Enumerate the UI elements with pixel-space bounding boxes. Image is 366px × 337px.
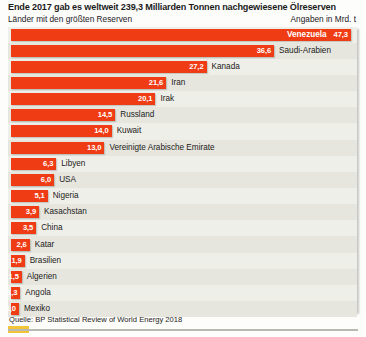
bar-wrapper: 1,0Mexiko — [11, 303, 50, 315]
bar-category-label: Kuwait — [112, 125, 142, 137]
bar-wrapper: 20,1Irak — [11, 93, 174, 105]
bar-wrapper: 27,2Kanada — [11, 61, 240, 73]
table-row: 13,0Vereinigte Arabische Emirate — [8, 140, 357, 156]
bar: 1,5 — [11, 271, 22, 283]
table-row: 20,1Irak — [8, 91, 357, 107]
bar-category-label: Brasilien — [25, 255, 61, 267]
bar-rows-container: Venezuela47,336,6Saudi-Arabien27,2Kanada… — [8, 27, 357, 312]
table-row: 1,5Algerien — [8, 269, 357, 285]
bar-value-label: 1,0 — [6, 303, 16, 315]
bar-value-label: 14,5 — [98, 109, 112, 121]
bar-wrapper: 1,5Algerien — [11, 271, 57, 283]
bar-wrapper: 6,0USA — [11, 174, 76, 186]
bar-wrapper: 6,3Libyen — [11, 158, 85, 170]
footer-divider — [8, 329, 358, 331]
bar-wrapper: 14,5Russland — [11, 109, 154, 121]
bar-category-label: Kasachstan — [39, 206, 87, 218]
bar-category-label: Algerien — [22, 271, 57, 283]
bar-value-label: 1,9 — [11, 255, 21, 267]
bar-wrapper: 3,5China — [11, 222, 63, 234]
infographic-page: Ende 2017 gab es weltweit 239,3 Milliard… — [0, 0, 366, 337]
bar: 2,6 — [11, 239, 30, 251]
bar-wrapper: 1,9Brasilien — [11, 255, 61, 267]
subtitle-row: Länder mit den größten Reserven Angaben … — [8, 14, 360, 25]
bar-value-label: 20,1 — [138, 93, 152, 105]
bar-category-label: Libyen — [56, 158, 85, 170]
bar-value-label: 5,1 — [34, 190, 44, 202]
table-row: 1,3Angola — [8, 285, 357, 301]
table-row: 21,6Iran — [8, 75, 357, 91]
bar: 20,1 — [11, 93, 155, 105]
bar-value-label: 6,3 — [43, 158, 53, 170]
bar-category-label: Vereinigte Arabische Emirate — [104, 142, 214, 154]
bar-wrapper: 1,3Angola — [11, 287, 51, 299]
bar-category-label: Katar — [30, 239, 55, 251]
bar: 36,6 — [11, 45, 274, 57]
bar-wrapper: Venezuela47,3 — [11, 29, 351, 41]
bar-value-label: 1,5 — [9, 271, 19, 283]
bar-chart-panel: Venezuela47,336,6Saudi-Arabien27,2Kanada… — [8, 27, 357, 312]
bar-value-label: 3,5 — [23, 222, 33, 234]
table-row: 14,5Russland — [8, 107, 357, 123]
table-row: 3,9Kasachstan — [8, 204, 357, 220]
table-row: 3,5China — [8, 220, 357, 236]
bar-value-label: 47,3 — [334, 29, 348, 41]
bar: 21,6 — [11, 77, 166, 89]
table-row: 27,2Kanada — [8, 59, 357, 75]
bar-wrapper: 21,6Iran — [11, 77, 185, 89]
source-note: Quelle: BP Statistical Review of World E… — [9, 315, 182, 324]
bar: 1,0 — [11, 303, 19, 315]
bar-wrapper: 2,6Katar — [11, 239, 54, 251]
bar: 14,5 — [11, 109, 115, 121]
bar-value-label: 1,3 — [7, 287, 17, 299]
bar-category-label: China — [36, 222, 62, 234]
bar: 14,0 — [11, 125, 112, 137]
bar-category-label: Venezuela — [287, 29, 334, 41]
bar: 6,3 — [11, 158, 56, 170]
bar-category-label: Mexiko — [19, 303, 50, 315]
bar-value-label: 21,6 — [149, 77, 163, 89]
bar-category-label: Angola — [20, 287, 51, 299]
bar: 3,5 — [11, 222, 36, 234]
bar-value-label: 6,0 — [41, 174, 51, 186]
bar: 1,3 — [11, 287, 20, 299]
bar-category-label: Irak — [155, 93, 174, 105]
bar: Venezuela47,3 — [11, 29, 351, 41]
bar-value-label: 13,0 — [87, 142, 101, 154]
bar-wrapper: 13,0Vereinigte Arabische Emirate — [11, 142, 215, 154]
bar-wrapper: 14,0Kuwait — [11, 125, 141, 137]
bar-wrapper: 5,1Nigeria — [11, 190, 79, 202]
bar: 13,0 — [11, 142, 104, 154]
bar-category-label: Iran — [166, 77, 185, 89]
bar-category-label: Saudi-Arabien — [274, 45, 331, 57]
bar-category-label: USA — [54, 174, 76, 186]
table-row: 6,0USA — [8, 172, 357, 188]
bar: 6,0 — [11, 174, 54, 186]
bar: 5,1 — [11, 190, 48, 202]
bar-value-label: 36,6 — [257, 45, 271, 57]
table-row: 1,9Brasilien — [8, 253, 357, 269]
bar-category-label: Nigeria — [48, 190, 79, 202]
bar: 27,2 — [11, 61, 207, 73]
table-row: 6,3Libyen — [8, 156, 357, 172]
bar-value-label: 27,2 — [189, 61, 203, 73]
bar-value-label: 2,6 — [16, 239, 26, 251]
page-title: Ende 2017 gab es weltweit 239,3 Milliard… — [8, 1, 360, 13]
table-row: Venezuela47,3 — [8, 27, 357, 43]
table-row: 2,6Katar — [8, 236, 357, 252]
bar-category-label: Russland — [115, 109, 154, 121]
bar: 1,9 — [11, 255, 25, 267]
units-label: Angaben in Mrd. t — [291, 14, 361, 25]
table-row: 14,0Kuwait — [8, 123, 357, 139]
bar-wrapper: 3,9Kasachstan — [11, 206, 87, 218]
bar-category-label: Kanada — [207, 61, 240, 73]
bar-wrapper: 36,6Saudi-Arabien — [11, 45, 331, 57]
chart-subtitle: Länder mit den größten Reserven — [8, 14, 132, 25]
table-row: 36,6Saudi-Arabien — [8, 43, 357, 59]
chart-header: Ende 2017 gab es weltweit 239,3 Milliard… — [8, 1, 360, 25]
table-row: 5,1Nigeria — [8, 188, 357, 204]
bar-value-label: 14,0 — [94, 125, 108, 137]
bar: 3,9 — [11, 206, 39, 218]
bar-value-label: 3,9 — [26, 206, 36, 218]
